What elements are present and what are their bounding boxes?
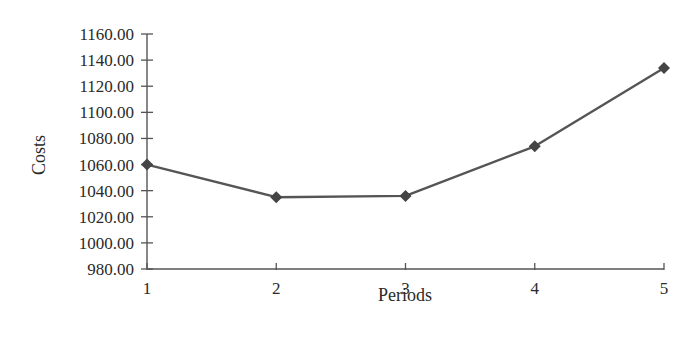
y-tick-label: 1160.00: [79, 25, 134, 44]
y-tick-label: 1000.00: [79, 234, 134, 253]
diamond-marker-icon: [270, 191, 282, 203]
line-chart: 980.001000.001020.001040.001060.001080.0…: [0, 0, 697, 349]
y-tick-label: 1040.00: [79, 182, 134, 201]
y-tick-label: 1080.00: [79, 129, 134, 148]
y-tick-label: 980.00: [87, 260, 134, 279]
y-tick-label: 1020.00: [79, 208, 134, 227]
y-axis: 980.001000.001020.001040.001060.001080.0…: [79, 25, 153, 279]
x-tick-label: 5: [660, 279, 669, 298]
x-axis-title: Periods: [378, 285, 432, 305]
diamond-marker-icon: [141, 159, 153, 171]
plot-area: [141, 62, 670, 203]
x-tick-label: 2: [272, 279, 281, 298]
x-tick-label: 4: [531, 279, 540, 298]
series-line: [147, 68, 664, 197]
y-tick-label: 1120.00: [79, 77, 134, 96]
y-tick-label: 1100.00: [79, 103, 134, 122]
x-tick-label: 1: [143, 279, 152, 298]
y-tick-label: 1060.00: [79, 156, 134, 175]
diamond-marker-icon: [529, 140, 541, 152]
y-axis-title: Costs: [29, 135, 49, 175]
diamond-marker-icon: [658, 62, 670, 74]
diamond-marker-icon: [400, 190, 412, 202]
y-tick-label: 1140.00: [79, 51, 134, 70]
